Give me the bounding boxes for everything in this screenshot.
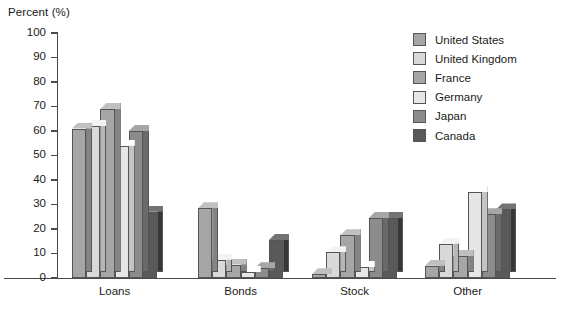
tick-mark bbox=[51, 81, 57, 82]
bar-front-face bbox=[425, 266, 439, 278]
bar-side-face bbox=[510, 203, 516, 272]
bar bbox=[269, 240, 283, 278]
legend-label: Germany bbox=[435, 91, 482, 103]
bar-side-face bbox=[383, 212, 389, 272]
bar-side-face bbox=[496, 208, 502, 272]
tick-label: 90 bbox=[0, 50, 46, 62]
legend-swatch-icon bbox=[413, 110, 426, 123]
legend: United StatesUnited KingdomFranceGermany… bbox=[413, 30, 517, 145]
bar-side-face bbox=[355, 229, 361, 272]
bar-front-face bbox=[312, 274, 326, 278]
legend-label: France bbox=[435, 72, 471, 84]
x-axis-line bbox=[4, 278, 556, 279]
tick-label: 70 bbox=[0, 99, 46, 111]
legend-swatch-icon bbox=[413, 71, 426, 84]
tick-label: 30 bbox=[0, 197, 46, 209]
tick-mark bbox=[51, 253, 57, 254]
bar-side-face bbox=[212, 202, 218, 272]
bar-side-face bbox=[143, 125, 149, 272]
bar-side-face bbox=[397, 212, 403, 272]
legend-label: United States bbox=[435, 34, 504, 46]
tick-label: 20 bbox=[0, 222, 46, 234]
legend-label: Japan bbox=[435, 110, 466, 122]
bar-front-face bbox=[198, 208, 212, 278]
tick-label: 50 bbox=[0, 148, 46, 160]
tick-mark bbox=[51, 32, 57, 33]
tick-label: 80 bbox=[0, 75, 46, 87]
bar-chart-figure: Percent (%) 0102030405060708090100 Loans… bbox=[0, 0, 566, 310]
legend-label: Canada bbox=[435, 130, 475, 142]
bar-front-face bbox=[269, 240, 283, 278]
bar-front-face bbox=[72, 129, 86, 278]
tick-mark bbox=[51, 57, 57, 58]
tick-mark bbox=[51, 277, 57, 278]
legend-swatch-icon bbox=[413, 129, 426, 142]
legend-swatch-icon bbox=[413, 33, 426, 46]
legend-swatch-icon bbox=[413, 91, 426, 104]
bar-side-face bbox=[100, 120, 106, 272]
y-axis-title: Percent (%) bbox=[8, 6, 70, 18]
tick-mark bbox=[51, 155, 57, 156]
tick-label: 100 bbox=[0, 26, 46, 38]
tick-label: 0 bbox=[0, 271, 46, 283]
bar bbox=[312, 274, 326, 278]
legend-item: Germany bbox=[413, 88, 517, 107]
legend-swatch-icon bbox=[413, 52, 426, 65]
bar bbox=[198, 208, 212, 278]
tick-label: 40 bbox=[0, 173, 46, 185]
tick-mark bbox=[51, 106, 57, 107]
legend-item: Japan bbox=[413, 107, 517, 126]
category-label-other: Other bbox=[395, 285, 540, 297]
tick-label: 10 bbox=[0, 246, 46, 258]
bar-side-face bbox=[86, 123, 92, 272]
tick-mark bbox=[51, 179, 57, 180]
tick-mark bbox=[51, 228, 57, 229]
legend-item: Canada bbox=[413, 126, 517, 145]
category-label-loans: Loans bbox=[42, 285, 187, 297]
bar-side-face bbox=[115, 103, 121, 272]
y-axis-line bbox=[57, 32, 58, 279]
bar bbox=[241, 272, 255, 278]
tick-mark bbox=[51, 130, 57, 131]
legend-item: United Kingdom bbox=[413, 49, 517, 68]
bar-side-face bbox=[157, 206, 163, 272]
tick-label: 60 bbox=[0, 124, 46, 136]
bar bbox=[425, 266, 439, 278]
legend-label: United Kingdom bbox=[435, 53, 517, 65]
tick-mark bbox=[51, 204, 57, 205]
bar bbox=[72, 129, 86, 278]
bar-side-face bbox=[129, 140, 135, 272]
bar-front-face bbox=[241, 272, 255, 278]
bar-side-face bbox=[482, 186, 488, 272]
legend-item: United States bbox=[413, 30, 517, 49]
legend-item: France bbox=[413, 68, 517, 87]
